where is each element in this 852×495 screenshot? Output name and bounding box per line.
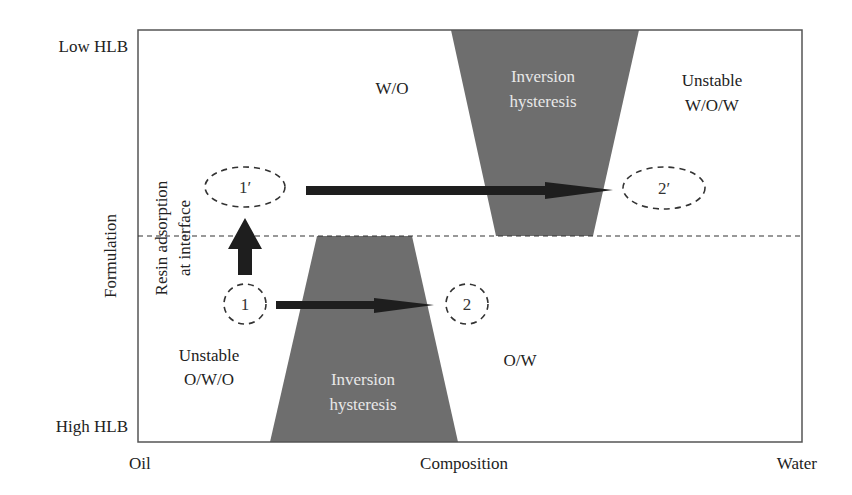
region-o-w-label: O/W	[503, 351, 537, 370]
region-unstable-owo-label-line2: O/W/O	[184, 370, 234, 389]
x-axis-left-label: Oil	[129, 454, 151, 473]
region-unstable-wow-label-line2: W/O/W	[685, 96, 740, 115]
phase-inversion-diagram: Low HLB High HLB Formulation Oil Composi…	[0, 0, 852, 495]
hysteresis-lower-label-line1: Inversion	[331, 370, 396, 389]
hysteresis-upper-label-line2: hysteresis	[509, 92, 576, 111]
y-axis-title: Formulation	[101, 213, 120, 298]
point-2-label: 2	[463, 295, 472, 314]
region-w-o-label: W/O	[375, 79, 408, 98]
x-axis-title: Composition	[420, 454, 508, 473]
resin-adsorption-annotation-line2: at interface	[175, 200, 194, 276]
hysteresis-upper-label-line1: Inversion	[511, 67, 576, 86]
up-arrow-resin-adsorption	[228, 218, 262, 275]
point-1-prime-label: 1′	[239, 178, 251, 197]
y-axis-top-label: Low HLB	[59, 37, 128, 56]
inversion-hysteresis-upper-region	[451, 30, 639, 236]
region-unstable-owo-label-line1: Unstable	[179, 346, 239, 365]
x-axis-right-label: Water	[777, 454, 817, 473]
resin-adsorption-annotation-line1: Resin adsorption	[152, 180, 171, 295]
region-unstable-wow-label-line1: Unstable	[682, 71, 742, 90]
hysteresis-lower-label-line2: hysteresis	[329, 395, 396, 414]
point-2-prime-label: 2′	[658, 179, 670, 198]
point-1-label: 1	[241, 295, 250, 314]
y-axis-bottom-label: High HLB	[56, 417, 128, 436]
